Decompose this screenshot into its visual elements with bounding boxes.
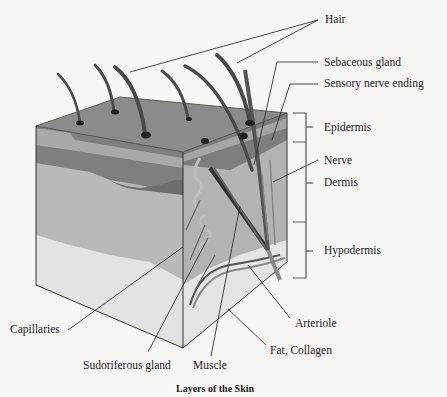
left-face bbox=[36, 126, 183, 348]
label-nerve: Nerve bbox=[324, 155, 352, 167]
label-arteriole: Arteriole bbox=[295, 318, 337, 330]
label-sebaceous-gland: Sebaceous gland bbox=[324, 57, 401, 69]
label-sudoriferous-gland: Sudoriferous gland bbox=[83, 360, 171, 372]
label-epidermis: Epidermis bbox=[324, 122, 371, 134]
label-muscle: Muscle bbox=[193, 360, 227, 372]
label-hair: Hair bbox=[325, 14, 345, 26]
diagram-caption: Layers of the Skin bbox=[0, 383, 430, 394]
layer-brackets bbox=[293, 113, 313, 278]
label-capillaries: Capillaries bbox=[10, 324, 60, 336]
label-dermis: Dermis bbox=[324, 177, 358, 189]
label-fat-collagen: Fat, Collagen bbox=[270, 345, 332, 357]
skin-layers-diagram: Hair Sebaceous gland Sensory nerve endin… bbox=[0, 0, 447, 397]
label-sensory-nerve-ending: Sensory nerve ending bbox=[324, 78, 424, 90]
label-hypodermis: Hypodermis bbox=[324, 245, 381, 257]
